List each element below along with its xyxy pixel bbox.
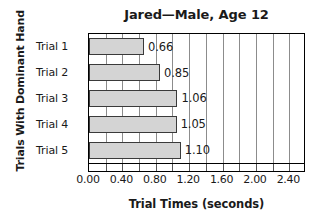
tick-mark	[106, 164, 107, 171]
tick-mark	[273, 164, 274, 171]
y-axis-label-trial-2: Trial 2	[36, 59, 86, 85]
bar-row: 0.85	[89, 60, 304, 86]
bars-layer: 0.66 0.85 1.06 1.05 1.10	[89, 34, 304, 163]
tick-mark	[122, 164, 123, 171]
bar-value-trial-5: 1.10	[185, 143, 210, 157]
x-tick-label: 2.40	[277, 173, 300, 186]
bar-trial-2	[89, 64, 160, 81]
x-axis-tick-band	[88, 164, 305, 172]
bar-trial-1	[89, 38, 144, 55]
bar-trial-4	[89, 116, 177, 133]
bar-value-trial-3: 1.06	[181, 91, 206, 105]
bar-value-trial-1: 0.66	[148, 40, 173, 54]
x-tick-label: 1.20	[176, 173, 199, 186]
y-axis-label-trial-1: Trial 1	[36, 33, 86, 59]
y-axis-label-trial-3: Trial 3	[36, 85, 86, 111]
x-tick-label: 0.00	[76, 173, 99, 186]
bar-trial-5	[89, 142, 181, 159]
x-tick-label: 2.00	[243, 173, 266, 186]
bar-trial-3	[89, 90, 177, 107]
tick-mark	[172, 164, 173, 171]
tick-mark	[139, 164, 140, 171]
x-tick-label: 0.80	[143, 173, 166, 186]
bar-row: 1.05	[89, 111, 304, 137]
x-axis-tick-labels: 0.000.400.801.201.602.002.40	[88, 173, 305, 189]
tick-mark	[289, 164, 290, 171]
tick-mark	[239, 164, 240, 171]
chart-title: Jared—Male, Age 12	[88, 7, 305, 22]
plot-area: 0.66 0.85 1.06 1.05 1.10	[88, 33, 305, 164]
bar-row: 1.06	[89, 86, 304, 112]
tick-mark	[256, 164, 257, 171]
y-axis-label-trial-4: Trial 4	[36, 112, 86, 138]
bar-chart: Jared—Male, Age 12 Trials With Dominant …	[0, 0, 323, 221]
tick-mark	[189, 164, 190, 171]
tick-mark	[156, 164, 157, 171]
bar-value-trial-4: 1.05	[181, 117, 206, 131]
bar-value-trial-2: 0.85	[164, 66, 189, 80]
bar-row: 0.66	[89, 34, 304, 60]
y-axis-category-labels: Trial 1 Trial 2 Trial 3 Trial 4 Trial 5	[36, 33, 86, 164]
bar-row: 1.10	[89, 137, 304, 163]
y-axis-title: Trials With Dominant Hand	[14, 12, 27, 172]
tick-mark	[223, 164, 224, 171]
x-tick-label: 1.60	[210, 173, 233, 186]
y-axis-label-trial-5: Trial 5	[36, 138, 86, 164]
x-axis-title: Trial Times (seconds)	[88, 197, 305, 211]
tick-mark	[206, 164, 207, 171]
x-tick-label: 0.40	[110, 173, 133, 186]
